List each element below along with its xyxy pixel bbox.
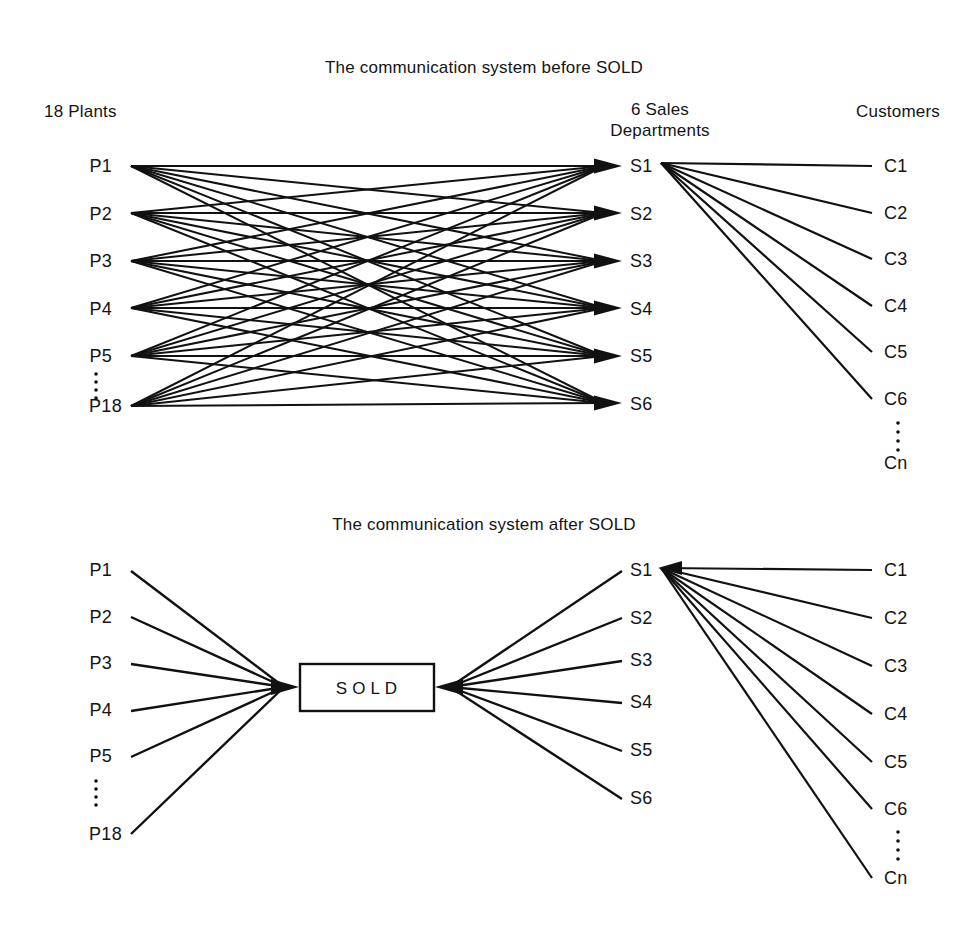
connector-line [661, 568, 872, 714]
node-label-p4: P4 [89, 299, 112, 319]
ellipsis-dot [896, 439, 900, 443]
sold-hub-label: SOLD [336, 679, 402, 698]
node-label-c5: C5 [884, 342, 908, 362]
node-label-s3-after: S3 [630, 650, 653, 670]
node-label-s5-after: S5 [630, 740, 653, 760]
arrowhead [594, 206, 622, 221]
customers-ellipsis-dots-after [896, 830, 900, 861]
sales-customers-edges [661, 163, 872, 399]
connector-line [450, 687, 622, 751]
ellipsis-dot [94, 779, 98, 783]
node-label-c1: C1 [884, 156, 908, 176]
node-label-c4: C4 [884, 296, 908, 316]
node-label-s2-after: S2 [630, 608, 653, 628]
panel-after-title: The communication system after SOLD [332, 515, 636, 534]
node-label-p2-after: P2 [89, 607, 112, 627]
arrowhead [435, 679, 463, 695]
node-label-p2: P2 [89, 204, 112, 224]
node-label-s4-after: S4 [630, 692, 653, 712]
ellipsis-dot [94, 388, 98, 392]
connector-line [661, 568, 872, 570]
node-label-c3: C3 [884, 249, 908, 269]
node-label-s4: S4 [630, 299, 653, 319]
customers-ellipsis-dots [896, 421, 900, 452]
node-label-cn-after: Cn [884, 868, 908, 888]
node-label-s6: S6 [630, 394, 653, 414]
node-label-s2: S2 [630, 204, 653, 224]
node-label-p3-after: P3 [89, 653, 112, 673]
node-label-p5: P5 [89, 346, 112, 366]
ellipsis-dot [896, 430, 900, 434]
connector-line [661, 568, 872, 618]
node-label-s1: S1 [630, 156, 653, 176]
connector-line [450, 687, 622, 703]
connector-line [131, 687, 284, 834]
connector-line [131, 403, 604, 406]
node-label-c1-after: C1 [884, 560, 908, 580]
node-label-p1: P1 [89, 156, 112, 176]
node-label-s5: S5 [630, 346, 653, 366]
arrowhead [594, 159, 622, 174]
node-label-c5-after: C5 [884, 752, 908, 772]
connector-line [661, 163, 872, 259]
node-label-p3: P3 [89, 251, 112, 271]
plants-hub-edges [131, 571, 284, 834]
node-label-p4-after: P4 [89, 700, 112, 720]
node-label-s6-after: S6 [630, 788, 653, 808]
panel-before-title: The communication system before SOLD [325, 58, 643, 77]
ellipsis-dot [94, 380, 98, 384]
panel-after: The communication system after SOLD SOLD… [89, 515, 908, 888]
arrowhead [594, 396, 622, 411]
arrowhead [594, 254, 622, 269]
arrowhead [594, 349, 622, 364]
connector-line [131, 571, 284, 687]
connector-line [661, 163, 872, 352]
node-label-c4-after: C4 [884, 704, 908, 724]
header-sales-line1: 6 Sales [631, 100, 689, 119]
node-label-c3-after: C3 [884, 656, 908, 676]
ellipsis-dot [896, 848, 900, 852]
diagram-page: The communication system before SOLD 18 … [0, 0, 968, 929]
panel-before: The communication system before SOLD 18 … [44, 58, 940, 473]
connector-line [661, 568, 872, 809]
ellipsis-dot [896, 839, 900, 843]
node-label-cn: Cn [884, 453, 908, 473]
communication-system-figure: The communication system before SOLD 18 … [0, 0, 968, 929]
connector-line [661, 568, 872, 878]
plants-sales-mesh-edges [131, 166, 604, 406]
connector-line [661, 163, 872, 306]
node-label-p1-after: P1 [89, 560, 112, 580]
ellipsis-dot [94, 795, 98, 799]
connector-line [661, 568, 872, 762]
connector-line [661, 568, 872, 666]
node-label-p18: P18 [89, 396, 122, 416]
node-label-s1-after: S1 [630, 560, 653, 580]
sales-customers-edges-after [658, 561, 872, 878]
header-plants: 18 Plants [44, 102, 117, 121]
ellipsis-dot [94, 396, 98, 400]
plants-ellipsis-dots-after [94, 779, 98, 807]
ellipsis-dot [94, 372, 98, 376]
ellipsis-dot [896, 421, 900, 425]
node-label-c2: C2 [884, 203, 908, 223]
node-label-c6-after: C6 [884, 799, 908, 819]
connector-line [661, 163, 872, 213]
ellipsis-dot [896, 830, 900, 834]
ellipsis-dot [94, 803, 98, 807]
connector-line [450, 687, 622, 799]
connector-line [131, 687, 284, 757]
node-label-p18-after: P18 [89, 824, 122, 844]
connector-line [661, 163, 872, 166]
connector-line [661, 163, 872, 399]
ellipsis-dot [896, 448, 900, 452]
sales-arrowheads [594, 159, 622, 411]
node-label-p5-after: P5 [89, 746, 112, 766]
node-label-c6: C6 [884, 389, 908, 409]
hub-sales-edges [450, 571, 622, 799]
ellipsis-dot [94, 787, 98, 791]
connector-line [450, 661, 622, 687]
header-sales-line2: Departments [610, 121, 710, 140]
node-label-s3: S3 [630, 251, 653, 271]
node-label-c2-after: C2 [884, 608, 908, 628]
ellipsis-dot [896, 857, 900, 861]
